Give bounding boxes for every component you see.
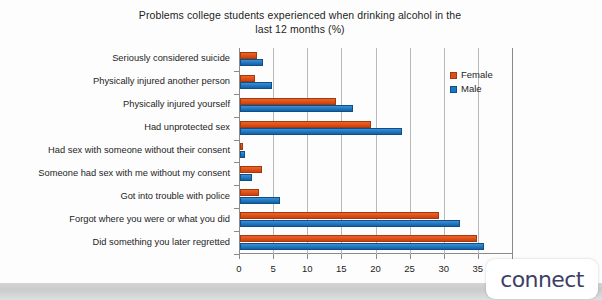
bar-male [240,243,484,250]
chart-title-line-1: Problems college students experienced wh… [70,8,530,22]
x-tick-label-20: 20 [370,263,381,274]
category-label: Seriously considered suicide [112,53,230,64]
x-tick-5 [273,254,274,259]
connect-logo-card: connect [486,259,598,299]
bar-row: Did something you later regretted [239,231,513,254]
bar-female [240,121,371,128]
x-tick-10 [307,254,308,259]
bar-row: Got into trouble with police [239,185,513,208]
legend: Female Male [450,68,493,96]
bar-female [240,235,477,242]
bar-female [240,166,262,173]
bar-row: Forgot where you were or what you did [239,208,513,231]
y-tick-8 [234,254,239,255]
x-tick-20 [376,254,377,259]
bar-male [240,105,353,112]
x-tick-15 [341,254,342,259]
bar-female [240,189,259,196]
x-tick-label-5: 5 [270,263,275,274]
x-tick-35 [478,254,479,259]
category-label: Physically injured yourself [123,99,230,110]
bar-male [240,82,272,89]
bar-female [240,98,336,105]
legend-label-male: Male [461,82,482,96]
bar-row: Someone had sex with me without my conse… [239,162,513,185]
legend-label-female: Female [461,68,493,82]
category-label: Someone had sex with me without my conse… [38,168,230,179]
chart-title-line-2: last 12 months (%) [70,22,530,36]
x-tick-label-15: 15 [336,263,347,274]
bar-male [240,151,245,158]
x-tick-25 [410,254,411,259]
category-label: Got into trouble with police [120,191,230,202]
bar-male [240,59,263,66]
legend-item-male: Male [450,82,493,96]
x-tick-label-30: 30 [438,263,449,274]
x-tick-30 [444,254,445,259]
legend-swatch-female-icon [450,72,457,79]
bar-male [240,128,402,135]
x-tick-label-0: 0 [236,263,241,274]
legend-swatch-male-icon [450,86,457,93]
category-label: Physically injured another person [93,76,230,87]
bar-female [240,52,257,59]
x-tick-label-35: 35 [473,263,484,274]
bar-female [240,75,255,82]
bar-row: Had sex with someone without their conse… [239,140,513,163]
category-label: Had sex with someone without their conse… [48,145,230,156]
bar-male [240,220,460,227]
x-tick-0 [239,254,240,259]
x-tick-label-25: 25 [404,263,415,274]
category-label: Had unprotected sex [144,122,230,133]
category-label: Did something you later regretted [93,237,230,248]
connect-logo-text: connect [500,267,584,292]
chart-title: Problems college students experienced wh… [70,8,530,36]
category-label: Forgot where you were or what you did [69,214,230,225]
bar-row: Physically injured yourself [239,94,513,117]
x-tick-label-10: 10 [302,263,313,274]
legend-item-female: Female [450,68,493,82]
bar-female [240,143,243,150]
bar-male [240,197,280,204]
bar-male [240,174,252,181]
chart-page: Problems college students experienced wh… [0,0,602,300]
bar-female [240,212,439,219]
bar-row: Had unprotected sex [239,117,513,140]
